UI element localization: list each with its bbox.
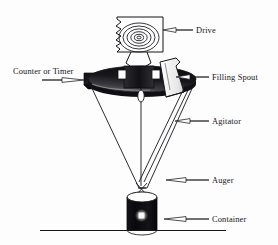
label-agitator: Agitator xyxy=(212,117,241,126)
leader-drive xyxy=(163,28,193,33)
agitator-rod xyxy=(139,86,190,182)
drive-leg-left xyxy=(126,52,131,66)
leader-lines xyxy=(42,28,209,222)
diagram-canvas: Drive Counter or Timer Filling Spout Agi… xyxy=(0,0,278,245)
agitator-hub xyxy=(118,66,160,88)
drive-leg-right xyxy=(146,52,151,66)
label-counter-or-timer: Counter or Timer xyxy=(13,67,74,76)
label-filling-spout: Filling Spout xyxy=(212,73,258,82)
label-drive: Drive xyxy=(196,26,216,35)
auger-filler-diagram: Drive Counter or Timer Filling Spout Agi… xyxy=(0,0,278,245)
label-container: Container xyxy=(212,215,246,224)
leader-agitator xyxy=(175,119,209,124)
leader-container xyxy=(164,217,209,222)
leader-counter xyxy=(42,78,84,83)
leader-auger xyxy=(166,178,209,183)
drive-assembly xyxy=(116,17,163,66)
container xyxy=(127,192,157,235)
label-auger: Auger xyxy=(212,176,234,185)
auger-shaft xyxy=(138,86,144,186)
